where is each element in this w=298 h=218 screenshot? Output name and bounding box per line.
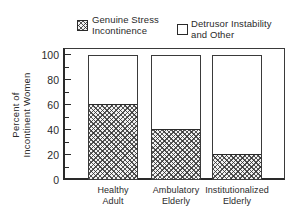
x-axis-category-label-line: Healthy <box>97 185 128 195</box>
y-axis-minor-tick <box>65 67 69 68</box>
y-axis-minor-tick <box>65 92 69 93</box>
legend-label-line: Detrusor Instability <box>191 18 272 29</box>
y-axis-tick-label: 60 <box>21 99 59 111</box>
x-axis-category-label-line: Institutionalized <box>205 185 269 195</box>
y-axis-major-tick <box>65 179 71 180</box>
y-axis-minor-tick <box>65 117 69 118</box>
y-axis-major-tick <box>65 79 71 80</box>
y-axis-tick-label: 80 <box>21 74 59 86</box>
y-axis-minor-tick <box>65 142 69 143</box>
bar-ambulatory-elderly <box>151 55 201 180</box>
legend-label-line: Genuine Stress <box>92 14 159 25</box>
legend-label-line: Incontinence <box>92 25 147 36</box>
legend-swatch-genuine-stress <box>77 20 88 31</box>
bar-segment-genuine-stress <box>213 154 261 179</box>
bar-segment-detrusor-other <box>213 56 261 153</box>
incontinence-stacked-bar-figure: Genuine Stress Incontinence Detrusor Ins… <box>0 0 298 218</box>
y-axis-major-tick <box>65 154 71 155</box>
y-axis-major-tick <box>65 54 71 55</box>
bar-segment-genuine-stress <box>152 129 200 179</box>
y-axis-tick-label: 20 <box>21 149 59 161</box>
y-axis-title-line: Percent of <box>10 92 21 137</box>
y-axis-title: Percent of Incontinent Women <box>10 44 32 186</box>
legend-label-detrusor-other: Detrusor Instability and Other <box>191 18 272 40</box>
y-axis-minor-tick <box>65 167 69 168</box>
x-axis-category-label-line: Elderly <box>223 196 251 206</box>
bar-segment-genuine-stress <box>89 104 137 179</box>
x-axis-category-label-line: Elderly <box>162 196 190 206</box>
legend-swatch-detrusor-other <box>177 24 188 35</box>
x-axis-category-label: InstitutionalizedElderly <box>192 185 282 206</box>
legend-label-line: and Other <box>191 29 234 40</box>
y-axis-major-tick <box>65 129 71 130</box>
bar-segment-detrusor-other <box>89 56 137 103</box>
y-axis-major-tick <box>65 104 71 105</box>
legend-label-genuine-stress: Genuine Stress Incontinence <box>92 14 159 36</box>
bar-segment-detrusor-other <box>152 56 200 128</box>
y-axis-tick-label: 0 <box>21 174 59 186</box>
y-axis-tick-label: 40 <box>21 124 59 136</box>
bar-institutionalized-elderly <box>212 55 262 180</box>
y-axis-tick-label: 100 <box>21 49 59 61</box>
x-axis-category-label-line: Adult <box>102 196 123 206</box>
bar-healthy-adult <box>88 55 138 180</box>
